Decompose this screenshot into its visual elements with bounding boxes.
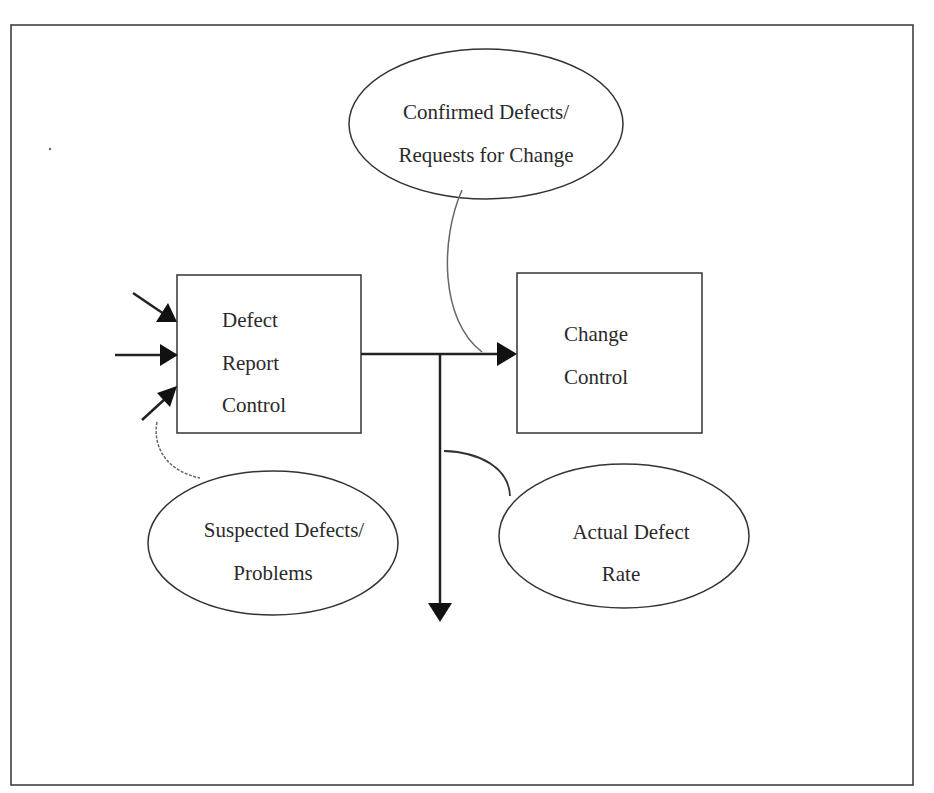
defect-control-diagram: Defect Report Control Change Control Con… — [0, 0, 934, 793]
flow-down-output — [428, 354, 452, 622]
label-line: Confirmed Defects/ — [403, 100, 569, 124]
label-line: Suspected Defects/ — [204, 518, 365, 542]
label-line: Actual Defect — [572, 520, 689, 544]
arrowhead-icon — [428, 603, 452, 622]
label-line: Requests for Change — [399, 143, 574, 167]
input-arrows — [115, 293, 178, 420]
node-label-line: Control — [222, 393, 286, 417]
connector-curve — [447, 190, 482, 352]
connector-curve — [444, 451, 510, 496]
node-label-line: Change — [564, 322, 628, 346]
label-confirmed-defects: Confirmed Defects/ Requests for Change — [349, 49, 623, 199]
stray-mark — [49, 148, 51, 150]
arrowhead-icon — [156, 303, 177, 322]
node-defect-report-control: Defect Report Control — [177, 275, 361, 433]
label-line: Problems — [233, 561, 312, 585]
arrowhead-icon — [160, 344, 178, 366]
node-label-line: Control — [564, 365, 628, 389]
node-change-control: Change Control — [517, 273, 702, 433]
arrowhead-icon — [497, 342, 517, 366]
node-label-line: Report — [222, 351, 279, 375]
label-actual-defect-rate: Actual Defect Rate — [499, 464, 749, 608]
label-suspected-defects: Suspected Defects/ Problems — [148, 471, 398, 615]
node-label-line: Defect — [222, 308, 278, 332]
label-line: Rate — [602, 562, 640, 586]
